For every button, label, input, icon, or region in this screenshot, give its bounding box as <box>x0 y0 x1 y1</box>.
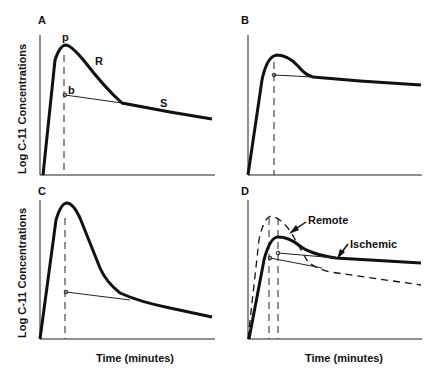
annotation-s: S <box>160 97 167 109</box>
annotation-p: p <box>62 31 69 43</box>
panel-b-plot <box>248 35 422 175</box>
figure-plots <box>0 0 430 376</box>
annotation-b: b <box>68 84 75 96</box>
annotation-remote: Remote <box>308 214 348 226</box>
annotation-ischemic: Ischemic <box>350 238 397 250</box>
panel-a-plot <box>40 35 215 175</box>
panel-c-plot <box>40 200 215 339</box>
annotation-r: R <box>95 55 103 67</box>
